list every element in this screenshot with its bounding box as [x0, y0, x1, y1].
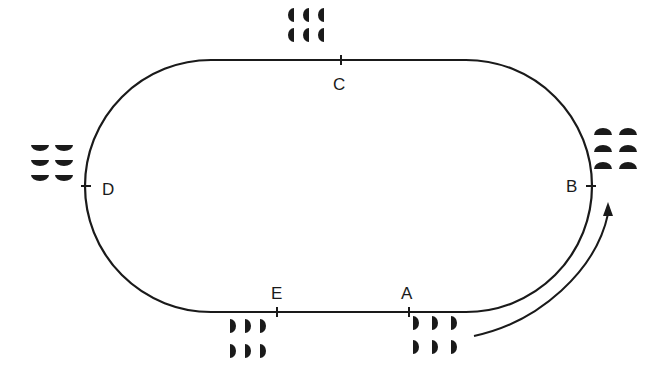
point-label-e: E [271, 285, 282, 302]
figure-icon [31, 145, 49, 151]
figure-icon [413, 340, 419, 354]
figure-icon [594, 145, 612, 152]
figure-icon [230, 319, 236, 333]
figure-icon [451, 316, 457, 330]
figure-icon [619, 128, 637, 135]
figure-icon [245, 344, 251, 358]
figure-group-b [594, 128, 637, 169]
direction-arrow [474, 202, 613, 336]
figure-icon [413, 316, 419, 330]
figure-icon [260, 344, 266, 358]
figure-icon [55, 160, 73, 166]
track-svg [0, 0, 664, 387]
point-label-b: B [566, 178, 577, 195]
figure-icon [31, 160, 49, 166]
oval-track [85, 60, 592, 312]
figure-icon [432, 340, 438, 354]
figure-icon [55, 145, 73, 151]
point-label-d: D [102, 181, 114, 198]
point-label-c: C [333, 76, 345, 93]
track-diagram: A B C D E [0, 0, 664, 387]
figure-icon [288, 8, 294, 22]
figure-icon [318, 8, 324, 22]
figure-icon [245, 319, 251, 333]
figure-icon [432, 316, 438, 330]
point-ticks [81, 55, 596, 317]
figure-group-e [230, 319, 266, 358]
figure-icon [594, 128, 612, 135]
figure-group-a [413, 316, 457, 354]
figure-group-c [288, 8, 324, 42]
figure-icon [288, 28, 294, 42]
figure-icon [318, 28, 324, 42]
arrowhead-icon [603, 202, 613, 216]
figure-icon [31, 175, 49, 181]
figure-icon [260, 319, 266, 333]
figure-icon [303, 28, 309, 42]
point-label-a: A [401, 285, 412, 302]
figure-icon [619, 145, 637, 152]
figure-group-d [31, 145, 73, 181]
figure-icon [619, 162, 637, 169]
figure-icon [303, 8, 309, 22]
figure-icon [55, 175, 73, 181]
figure-icon [594, 162, 612, 169]
figure-icon [451, 340, 457, 354]
figure-icon [230, 344, 236, 358]
